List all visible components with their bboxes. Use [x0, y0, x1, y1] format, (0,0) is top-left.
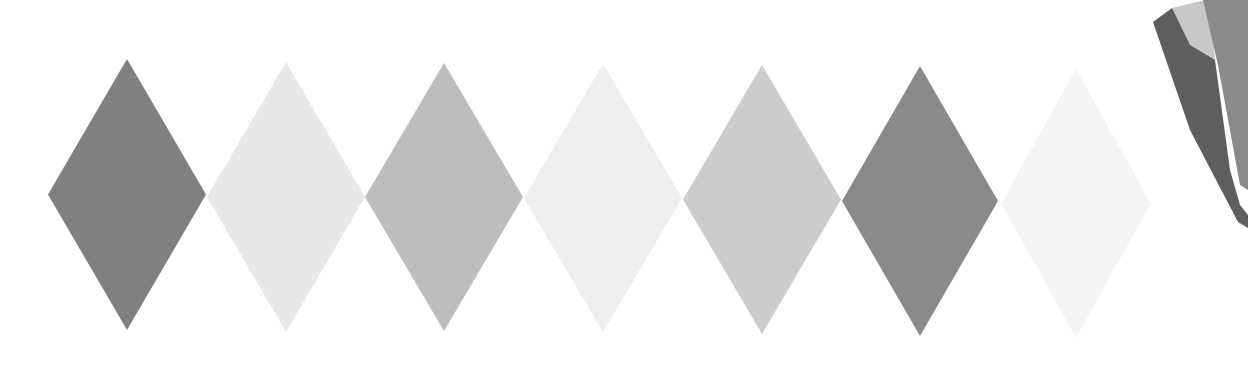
diamond-1 — [48, 59, 206, 330]
diamond-row-diagram — [0, 0, 1248, 381]
diamond-3 — [365, 63, 523, 331]
diamond-6 — [842, 66, 998, 336]
folded-edge-shape — [1153, 0, 1248, 228]
diamond-7 — [1001, 69, 1151, 338]
diamond-4 — [524, 64, 682, 332]
diamonds-group — [48, 59, 1151, 338]
diamond-2 — [207, 62, 365, 332]
diamond-5 — [683, 65, 841, 334]
